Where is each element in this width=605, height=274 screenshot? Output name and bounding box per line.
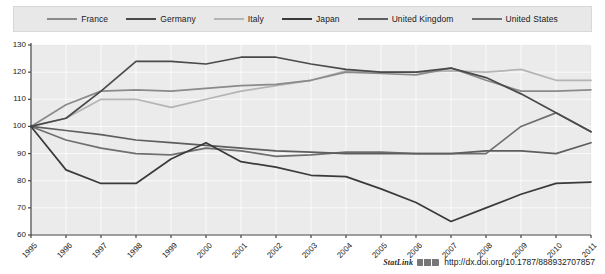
- legend-label: Italy: [248, 14, 264, 24]
- legend-label: Japan: [316, 14, 340, 24]
- y-tick-label: 110: [4, 94, 26, 103]
- y-tick-label: 90: [4, 149, 26, 158]
- legend-line-swatch: [47, 18, 77, 20]
- legend-label: United Kingdom: [392, 14, 454, 24]
- legend-line-swatch: [472, 18, 502, 20]
- legend-item-united-kingdom[interactable]: United Kingdom: [358, 14, 454, 24]
- y-tick-label: 80: [4, 176, 26, 185]
- legend-item-germany[interactable]: Germany: [126, 14, 196, 24]
- legend-line-swatch: [214, 18, 244, 20]
- legend-label: United States: [506, 14, 558, 24]
- legend-item-japan[interactable]: Japan: [282, 14, 340, 24]
- legend-label: France: [81, 14, 108, 24]
- legend-item-united-states[interactable]: United States: [472, 14, 558, 24]
- y-tick-label: 70: [4, 203, 26, 212]
- y-tick-label: 100: [4, 121, 26, 130]
- statlink-url[interactable]: http://dx.doi.org/10.1787/888932707857: [444, 257, 595, 267]
- chart-svg: [0, 40, 605, 240]
- statlink-footer: StatLink http://dx.doi.org/10.1787/88893…: [0, 252, 605, 272]
- chart-figure: FranceGermanyItalyJapanUnited KingdomUni…: [0, 0, 605, 274]
- statlink-logo-icon: [417, 259, 439, 266]
- legend-line-swatch: [126, 18, 156, 20]
- statlink-label: StatLink: [383, 258, 413, 267]
- y-tick-label: 130: [4, 40, 26, 49]
- legend-line-swatch: [358, 18, 388, 20]
- legend-item-france[interactable]: France: [47, 14, 108, 24]
- chart-legend: FranceGermanyItalyJapanUnited KingdomUni…: [13, 6, 592, 32]
- y-tick-label: 60: [4, 230, 26, 239]
- y-tick-label: 120: [4, 67, 26, 76]
- legend-label: Germany: [160, 14, 196, 24]
- legend-item-italy[interactable]: Italy: [214, 14, 264, 24]
- plot-container: 60708090100110120130 1995199619971998199…: [0, 40, 605, 240]
- legend-line-swatch: [282, 18, 312, 20]
